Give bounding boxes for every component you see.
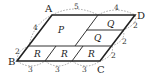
vertex-A-label: A — [44, 3, 53, 14]
measure-right-2a: 2 — [133, 21, 138, 30]
measure-bottom-3a: 3 — [28, 65, 33, 74]
measure-left-2: 2 — [15, 47, 20, 56]
divider-R1-R2 — [45, 46, 56, 61]
measure-top-4: 4 — [114, 3, 119, 12]
measure-left-4: 4 — [33, 23, 38, 32]
vertex-B-label: B — [8, 56, 15, 67]
measure-bottom-3c: 3 — [82, 65, 87, 74]
measure-bottom-3b: 3 — [55, 65, 60, 74]
divider-R2-R3 — [72, 46, 83, 61]
region-Q2-label: Q — [94, 33, 102, 43]
diagram-canvas: A B C D P Q Q R R R 5 4 4 2 3 3 3 2 2 2 — [0, 0, 152, 76]
region-P-label: P — [57, 25, 65, 35]
region-Q1-label: Q — [107, 19, 115, 29]
measure-right-2b: 2 — [122, 37, 127, 46]
vertex-C-label: C — [97, 64, 105, 75]
measure-right-2c: 2 — [111, 51, 116, 60]
region-R3-label: R — [87, 49, 95, 59]
parallelogram-diagram: A B C D P Q Q R R R 5 4 4 2 3 3 3 2 2 2 — [0, 0, 152, 76]
measure-top-5: 5 — [74, 2, 79, 11]
vertex-D-label: D — [137, 10, 145, 21]
region-R1-label: R — [33, 49, 41, 59]
region-R2-label: R — [60, 49, 68, 59]
